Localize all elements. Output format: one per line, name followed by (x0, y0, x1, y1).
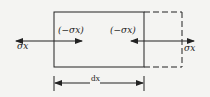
label-right-outer-sigma: σx (184, 43, 195, 53)
label-dimension-dx: dx (91, 73, 101, 83)
label-right-inner-neg-sigma: (−σx) (110, 25, 136, 35)
label-left-outer-sigma: σx (17, 41, 28, 51)
label-left-inner-neg-sigma: (−σx) (58, 25, 84, 35)
stress-element-diagram: σx (−σx) (−σx) σx dx (0, 0, 210, 97)
element-rectangle (54, 12, 144, 67)
dashed-extension (144, 12, 182, 67)
